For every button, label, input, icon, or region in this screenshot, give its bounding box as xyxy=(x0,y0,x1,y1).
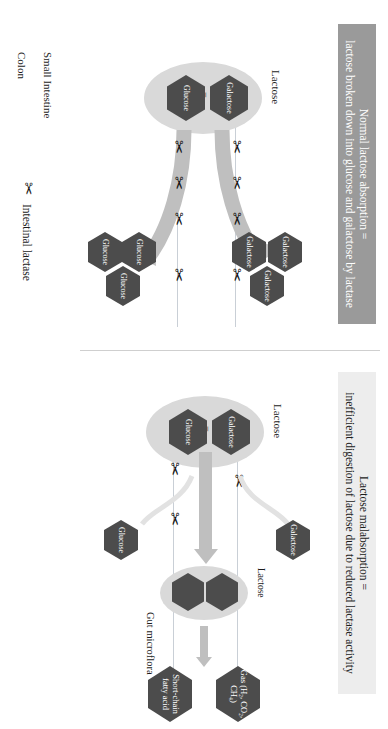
panel-title-malabsorption-line1: Lactose malabsorption = xyxy=(357,476,371,590)
diagram-canvas: Normal lactose absorption = lactose brok… xyxy=(0,0,388,729)
lactase-scissors-icon: ✂ xyxy=(170,212,187,226)
compartment-label-colon: Colon xyxy=(16,52,28,79)
panel-title-normal-line2: lactose broken down into glucose and gal… xyxy=(343,40,357,308)
panel-title-normal-line1: Normal lactose absorption = xyxy=(357,109,371,240)
lactose-label-normal: Lactose xyxy=(270,70,282,104)
lactase-scissors-icon: ✂ xyxy=(170,176,187,190)
figure-canvas: Normal lactose absorption = lactose brok… xyxy=(0,0,388,729)
gut-microflora-label: Gut microflora xyxy=(145,612,156,675)
panel-title-normal-absorption: Normal lactose absorption = lactose brok… xyxy=(338,24,376,324)
lactase-scissors-icon: ✂ xyxy=(228,212,245,226)
compartment-label-small-intestine: Small Intestine xyxy=(42,52,54,118)
legend-label-intestinal-lactase: Intestinal lactase xyxy=(21,204,33,281)
fermentation-arrow xyxy=(200,626,208,658)
lactase-scissors-icon: ✂ xyxy=(170,268,187,282)
product-gas: Gas (H₂, CO₂, CH₄) xyxy=(216,666,260,722)
panel-divider xyxy=(80,350,380,351)
legend-scissors-icon: ✂ xyxy=(20,182,36,195)
lactase-scissors-icon: ✂ xyxy=(228,176,245,190)
undigested-lactose-label: Lactose xyxy=(256,568,266,598)
panel-title-malabsorption: Lactose malabsorption = inefficient dige… xyxy=(338,372,376,694)
lactase-scissors-icon: ✂ xyxy=(170,140,187,154)
lactose-label-malabsorption: Lactose xyxy=(272,404,284,438)
undigested-lactose-transit-arrow xyxy=(199,452,212,550)
product-connector-upper xyxy=(237,618,238,674)
panel-title-malabsorption-line2: inefficient digestion of lactose due to … xyxy=(343,392,357,673)
lactase-scissors-icon: ✂ xyxy=(228,140,245,154)
lactase-scissors-icon: ✂ xyxy=(228,268,245,282)
product-connector-lower xyxy=(173,618,174,674)
